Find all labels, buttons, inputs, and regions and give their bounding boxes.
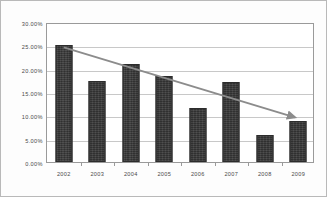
bar-2007 [223, 82, 240, 162]
bar-slot [282, 24, 316, 162]
x-axis-tick [181, 162, 182, 166]
y-axis-tick-label: 0.00% [25, 161, 43, 167]
x-axis-tick [248, 162, 249, 166]
x-axis-tick-label: 2007 [224, 171, 238, 177]
x-axis-tick [282, 162, 283, 166]
plot-area: 0.00%5.00%10.00%15.00%20.00%25.00%30.00%… [46, 23, 314, 163]
chart-figure: 0.00%5.00%10.00%15.00%20.00%25.00%30.00%… [0, 0, 327, 197]
bar-2009 [290, 121, 307, 162]
x-axis-tick [215, 162, 216, 166]
bar-2003 [89, 81, 106, 162]
bar-slot [81, 24, 115, 162]
bar-slot [181, 24, 215, 162]
y-axis-tick-label: 5.00% [25, 138, 43, 144]
bar-2002 [55, 45, 72, 162]
bar-slot [215, 24, 249, 162]
x-axis-tick [148, 162, 149, 166]
x-axis-tick-label: 2006 [191, 171, 205, 177]
y-axis-tick-label: 20.00% [22, 68, 43, 74]
y-axis-tick-label: 10.00% [22, 114, 43, 120]
bar-2005 [156, 76, 173, 162]
bar-slot [248, 24, 282, 162]
x-axis-tick-label: 2004 [124, 171, 138, 177]
bar-slot [148, 24, 182, 162]
bar-2004 [122, 64, 139, 162]
x-axis-tick-label: 2003 [90, 171, 104, 177]
x-axis-tick-label: 2009 [291, 171, 305, 177]
bar-2006 [189, 108, 206, 162]
bar-slot [114, 24, 148, 162]
bar-slot [47, 24, 81, 162]
x-axis-tick [81, 162, 82, 166]
x-axis-tick-label: 2005 [157, 171, 171, 177]
bar-2008 [256, 135, 273, 162]
bars-group [47, 24, 313, 162]
y-axis-tick-label: 30.00% [22, 21, 43, 27]
y-axis-tick-label: 15.00% [22, 91, 43, 97]
x-axis-tick [114, 162, 115, 166]
x-axis-tick-label: 2002 [57, 171, 71, 177]
x-axis-tick-label: 2008 [258, 171, 272, 177]
y-axis-tick-label: 25.00% [22, 44, 43, 50]
